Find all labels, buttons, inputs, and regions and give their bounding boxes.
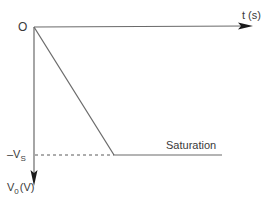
voltage-axis-label: V0(V): [7, 181, 34, 196]
saturation-voltage-prefix: –V: [7, 148, 21, 160]
time-axis: [34, 26, 246, 27]
voltage-axis-label-unit: (V): [20, 181, 35, 193]
saturation-voltage-label: –VS: [7, 148, 26, 163]
voltage-time-diagram: O t (s) Saturation –VS V0(V): [0, 0, 272, 212]
saturation-voltage-subscript: S: [20, 154, 25, 163]
origin-label: O: [18, 20, 27, 34]
time-axis-label: t (s): [242, 9, 261, 21]
ramp-line: [34, 27, 114, 155]
saturation-label: Saturation: [166, 139, 216, 151]
voltage-axis-label-subscript: 0: [14, 187, 19, 196]
